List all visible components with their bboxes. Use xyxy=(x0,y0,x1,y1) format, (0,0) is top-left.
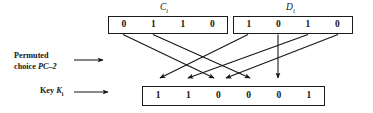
permuted-choice-label-line1: Permuted xyxy=(14,51,57,62)
key-label-subscript: i xyxy=(62,91,64,97)
register-key-box: 1 1 0 0 0 1 xyxy=(142,86,325,106)
register-c-box: 0 1 1 0 xyxy=(108,16,228,34)
register-d-bit: 1 xyxy=(293,20,323,30)
wire-d1-to-k1 xyxy=(160,35,248,79)
register-c-bit: 0 xyxy=(198,20,228,30)
register-c-caption: Ci xyxy=(160,2,168,14)
register-c-bit: 1 xyxy=(168,20,198,30)
register-c-caption-subscript: i xyxy=(166,7,168,14)
permuted-choice-label: Permuted choice PC–2 xyxy=(14,51,57,72)
register-d-bit: 0 xyxy=(323,20,353,30)
permuted-choice-label-prefix: choice xyxy=(14,62,38,71)
wire-group xyxy=(123,35,338,79)
register-key-bit: 0 xyxy=(264,91,294,101)
wire-c2-to-k6 xyxy=(153,35,250,79)
permuted-choice-label-line2: choice PC–2 xyxy=(14,62,57,73)
register-key-bit: 1 xyxy=(294,91,324,101)
register-key-bit: 1 xyxy=(173,91,203,101)
permuted-choice-label-code: PC xyxy=(38,62,48,71)
key-label: Key Ki xyxy=(40,86,63,98)
key-label-prefix: Key xyxy=(40,86,56,95)
register-d-bit: 1 xyxy=(234,20,264,30)
register-d-caption-subscript: i xyxy=(293,7,295,14)
register-d-bit: 0 xyxy=(264,20,294,30)
wire-c1-to-k5 xyxy=(123,35,214,79)
register-c-bit: 1 xyxy=(139,20,169,30)
register-key-bit: 1 xyxy=(143,91,173,101)
register-d-box: 1 0 1 0 xyxy=(233,16,353,34)
register-key-bit: 0 xyxy=(203,91,233,101)
register-key-bit: 0 xyxy=(234,91,264,101)
register-d-caption-base: D xyxy=(286,2,293,12)
register-d-caption: Di xyxy=(286,2,295,14)
wire-d4-to-k3 xyxy=(226,35,338,79)
figure-canvas: Ci Di 0 1 1 0 1 0 1 0 1 1 0 0 0 1 Permut… xyxy=(0,0,373,113)
permuted-choice-label-suffix: –2 xyxy=(48,62,56,71)
wire-d3-to-k2 xyxy=(188,35,308,79)
register-c-bit: 0 xyxy=(109,20,139,30)
